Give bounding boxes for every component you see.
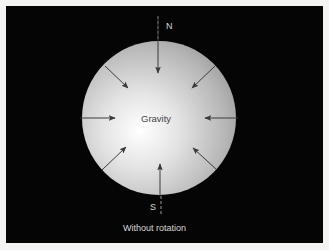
gravity-diagram xyxy=(0,0,329,250)
gravity-label: Gravity xyxy=(141,114,171,124)
north-label: N xyxy=(166,22,173,31)
south-label: S xyxy=(150,203,156,212)
caption: Without rotation xyxy=(123,224,186,233)
